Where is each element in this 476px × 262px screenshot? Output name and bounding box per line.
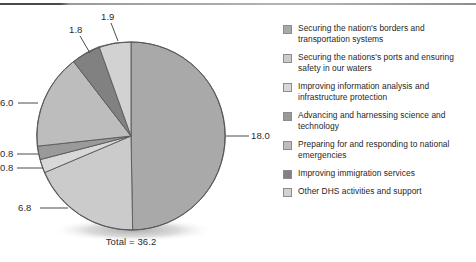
slice-value-label-18: 18.0 bbox=[251, 130, 270, 141]
legend-item-label: Advancing and harnessing science and tec… bbox=[298, 110, 470, 132]
legend-item[interactable]: Improving information analysis and infra… bbox=[283, 81, 476, 103]
legend-swatch-icon bbox=[283, 25, 292, 34]
legend-item[interactable]: Securing the nations's ports and ensurin… bbox=[283, 52, 476, 74]
legend-swatch-icon bbox=[283, 54, 292, 63]
top-divider-rule bbox=[0, 3, 476, 5]
chart-legend: Securing the nation's borders and transp… bbox=[283, 23, 476, 204]
legend-item[interactable]: Improving immigration services bbox=[283, 168, 476, 179]
leader-line-18b bbox=[80, 36, 90, 53]
legend-item-label: Improving immigration services bbox=[298, 168, 415, 179]
legend-swatch-icon bbox=[283, 170, 292, 179]
slice-value-label-08a: 0.8 bbox=[0, 148, 14, 159]
legend-swatch-icon bbox=[283, 83, 292, 92]
pie-panel: 18.0 1.9 1.8 6.0 0.8 0.8 6.8 Total = 36.… bbox=[0, 8, 280, 262]
legend-item-label: Improving information analysis and infra… bbox=[298, 81, 470, 103]
legend-swatch-icon bbox=[283, 188, 292, 197]
legend-item-label: Other DHS activities and support bbox=[298, 186, 422, 197]
legend-swatch-icon bbox=[283, 141, 292, 150]
legend-item[interactable]: Securing the nation's borders and transp… bbox=[283, 23, 476, 45]
slice-value-label-19: 1.9 bbox=[101, 11, 115, 22]
slice-value-label-60: 6.0 bbox=[0, 97, 14, 108]
pie-chart-figure: 18.0 1.9 1.8 6.0 0.8 0.8 6.8 Total = 36.… bbox=[0, 8, 476, 262]
slice-value-label-08b: 0.8 bbox=[0, 162, 14, 173]
legend-item-label: Securing the nation's borders and transp… bbox=[298, 23, 470, 45]
legend-item-label: Securing the nations's ports and ensurin… bbox=[298, 52, 470, 74]
legend-swatch-icon bbox=[283, 112, 292, 121]
slice-value-label-18b: 1.8 bbox=[69, 24, 83, 35]
pie-slice-borders-transportation[interactable] bbox=[131, 42, 225, 230]
leader-line-19 bbox=[111, 23, 118, 41]
pie-graphic bbox=[0, 8, 280, 262]
legend-item[interactable]: Preparing for and responding to national… bbox=[283, 139, 476, 161]
pie-total-label: Total = 36.2 bbox=[0, 236, 262, 247]
legend-item[interactable]: Advancing and harnessing science and tec… bbox=[283, 110, 476, 132]
slice-value-label-68: 6.8 bbox=[18, 202, 32, 213]
legend-item[interactable]: Other DHS activities and support bbox=[283, 186, 476, 197]
legend-item-label: Preparing for and responding to national… bbox=[298, 139, 470, 161]
